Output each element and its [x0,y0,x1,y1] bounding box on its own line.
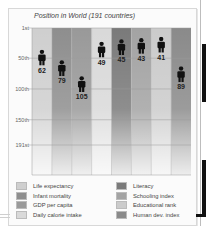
legend-swatch [116,211,127,219]
legend-label: Educational rank [133,202,176,208]
legend-swatch [16,182,27,190]
legend-label: Daily calorie intake [33,212,82,218]
legend-swatch [16,192,27,200]
legend-label: GDP per capita [33,202,73,208]
legend-item: Human dev. index [116,211,179,219]
data-label: 79 [58,77,66,84]
legend-swatch [16,211,27,219]
data-label: 62 [38,67,46,74]
legend-item: GDP per capita [16,201,73,209]
scrollbar-thumb[interactable] [202,160,206,216]
legend-label: Infant mortality [33,193,71,199]
bracket-foot [196,214,206,217]
y-tick-label: 100th [15,86,29,92]
legend-swatch [116,192,127,200]
y-tick-label: 150th [15,117,29,123]
legend-swatch [16,201,27,209]
data-label: 41 [157,54,165,61]
legend-label: Literacy [133,183,153,189]
y-tick-label: 50th [18,55,29,61]
legend-label: Human dev. index [133,212,179,218]
legend-item: Infant mortality [16,192,71,200]
scrollbar-thumb[interactable] [202,44,206,102]
legend-item: Literacy [116,182,153,190]
legend-item: Educational rank [116,201,176,209]
legend-item: Daily calorie intake [16,211,82,219]
data-label: 89 [177,83,185,90]
data-label: 45 [118,56,126,63]
legend-swatch [116,201,127,209]
legend-item: Schooling index [116,192,174,200]
legend-label: Life expectancy [33,183,73,189]
data-label: 43 [137,55,145,62]
y-tick-label: 1st [22,25,30,31]
legend-item: Life expectancy [16,182,73,190]
scroll-track [200,0,201,226]
data-label: 105 [76,93,88,100]
legend-swatch [116,182,127,190]
data-label: 49 [98,59,106,66]
legend-label: Schooling index [133,193,174,199]
y-tick-label: 191st [16,142,30,148]
